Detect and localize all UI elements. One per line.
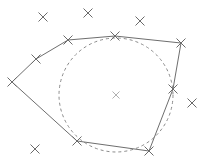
cross-marker-icon: [84, 9, 93, 18]
cross-marker-icon: [188, 99, 197, 108]
cross-marker-icon: [8, 78, 17, 87]
cross-marker-icon: [31, 145, 40, 154]
cross-marker-icon: [39, 13, 48, 22]
convex-hull-polygon: [12, 36, 181, 151]
circle-center-marker: [113, 92, 120, 99]
hull-vertex-markers: [8, 32, 186, 156]
cross-marker-icon: [32, 55, 41, 64]
diagram-canvas: [0, 0, 208, 167]
cross-marker-icon: [136, 17, 145, 26]
center-cross-icon: [113, 92, 120, 99]
